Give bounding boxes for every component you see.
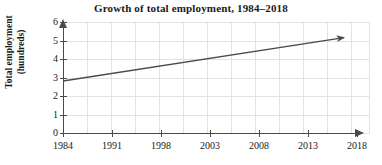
y-tick-mark xyxy=(60,96,67,97)
y-tick-mark xyxy=(60,22,67,23)
x-tick-mark xyxy=(161,130,162,137)
x-tick-label: 2003 xyxy=(188,140,232,151)
x-tick-mark xyxy=(259,130,260,137)
x-tick-label: 2008 xyxy=(237,140,281,151)
gridline-horizontal xyxy=(63,115,370,116)
y-tick-mark xyxy=(60,78,67,79)
x-tick-label: 1991 xyxy=(90,140,134,151)
y-tick-label: 1 xyxy=(38,109,58,120)
y-tick-label: 5 xyxy=(38,35,58,46)
y-tick-label: 0 xyxy=(38,127,58,138)
y-tick-label: 2 xyxy=(38,90,58,101)
x-tick-label: 2018 xyxy=(335,140,379,151)
y-tick-label: 6 xyxy=(38,16,58,27)
x-tick-label: 2013 xyxy=(286,140,330,151)
gridline-horizontal xyxy=(63,41,370,42)
x-tick-mark xyxy=(210,130,211,137)
y-tick-label: 3 xyxy=(38,72,58,83)
y-tick-label: 4 xyxy=(38,53,58,64)
gridline-horizontal xyxy=(63,78,370,79)
y-axis-title: Total employment (hundreds) xyxy=(4,0,32,108)
y-tick-mark xyxy=(60,41,67,42)
x-tick-mark xyxy=(63,130,64,137)
x-tick-label: 1984 xyxy=(41,140,85,151)
x-tick-label: 1998 xyxy=(139,140,183,151)
arrow-up-icon xyxy=(59,19,67,28)
x-tick-mark xyxy=(357,130,358,137)
y-axis-title-line-1: Total employment xyxy=(4,0,16,108)
x-tick-mark xyxy=(308,130,309,137)
plot-area xyxy=(63,22,370,133)
gridline-horizontal xyxy=(63,96,370,97)
x-tick-mark xyxy=(112,130,113,137)
gridline-horizontal xyxy=(63,22,370,23)
y-tick-mark xyxy=(60,59,67,60)
chart-figure: Growth of total employment, 1984–2018 To… xyxy=(0,0,382,165)
y-axis-title-line-2: (hundreds) xyxy=(16,0,28,108)
y-tick-mark xyxy=(60,115,67,116)
gridline-horizontal xyxy=(63,59,370,60)
chart-title: Growth of total employment, 1984–2018 xyxy=(0,2,382,14)
y-axis-line xyxy=(63,26,64,134)
